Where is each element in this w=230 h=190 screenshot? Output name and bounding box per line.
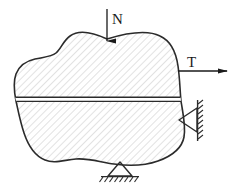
force-T: T (178, 54, 227, 71)
pin-support-right-wall-hatch (198, 100, 203, 139)
force-T-label: T (187, 54, 196, 70)
pin-support-bottom-ground-hatch (100, 177, 139, 182)
figure-canvas: N T (0, 0, 230, 190)
mechanics-figure: N T (0, 0, 230, 190)
horizontal-section-gap (0, 97, 230, 101)
force-N-label: N (112, 11, 123, 27)
irregular-rigid-body (0, 32, 230, 165)
